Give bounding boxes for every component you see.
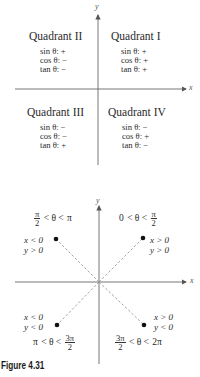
quadrant-1-title: Quadrant I bbox=[111, 31, 161, 43]
conditions-q2: x < 0 y > 0 bbox=[24, 236, 43, 255]
point-q4 bbox=[142, 323, 147, 328]
top-x-axis-label: x bbox=[189, 84, 193, 92]
range-q2: π2 < θ < π bbox=[34, 210, 72, 227]
range-q1: 0 < θ < π2 bbox=[119, 210, 157, 227]
quadrant-2-tan: tan θ: − bbox=[40, 65, 82, 74]
point-q1 bbox=[141, 236, 146, 241]
bottom-x-axis-label: x bbox=[190, 277, 194, 285]
conditions-q4: x > 0 y < 0 bbox=[154, 313, 173, 332]
quadrant-3-tan: tan θ: + bbox=[40, 141, 84, 150]
quadrant-4-tan: tan θ: − bbox=[122, 141, 166, 150]
quadrant-4-block: Quadrant IV sin θ: − cos θ: + tan θ: − bbox=[108, 107, 166, 150]
quadrant-3-block: Quadrant III sin θ: − cos θ: − tan θ: + bbox=[27, 107, 84, 150]
conditions-q3: x < 0 y < 0 bbox=[24, 313, 43, 332]
quadrant-2-title: Quadrant II bbox=[29, 31, 82, 43]
quadrant-1-tan: tan θ: + bbox=[121, 65, 161, 74]
conditions-q1: x > 0 y > 0 bbox=[150, 236, 169, 255]
figure-caption: Figure 4.31 bbox=[1, 361, 44, 371]
range-q4: 3π2 < θ < 2π bbox=[115, 334, 162, 351]
quadrant-2-block: Quadrant II sin θ: + cos θ: − tan θ: − bbox=[29, 31, 82, 74]
bottom-y-axis-label: y bbox=[96, 197, 100, 205]
dashed-rays bbox=[56, 238, 144, 325]
point-q3 bbox=[55, 323, 60, 328]
quadrant-1-block: Quadrant I sin θ: + cos θ: + tan θ: + bbox=[111, 31, 161, 74]
top-y-axis-label: y bbox=[95, 3, 99, 11]
point-q2 bbox=[54, 237, 59, 242]
range-q3: π < θ < 3π2 bbox=[33, 334, 75, 351]
quadrant-4-title: Quadrant IV bbox=[108, 107, 166, 119]
quadrant-3-title: Quadrant III bbox=[27, 107, 84, 119]
